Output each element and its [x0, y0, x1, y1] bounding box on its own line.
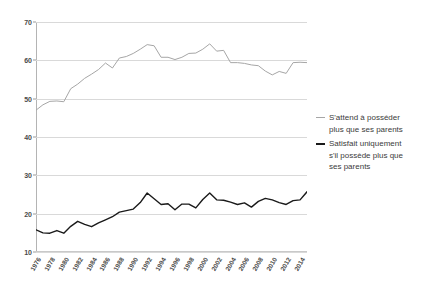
series-line-1: [36, 192, 307, 233]
x-tick-label: 1980: [57, 256, 70, 272]
x-tick-label: 2006: [237, 256, 250, 272]
y-tick-label: 20: [24, 210, 32, 217]
legend-label-line: plus que ses parents: [329, 124, 429, 136]
line-swatch-gray-icon: [316, 117, 325, 118]
x-tick-label: 1982: [70, 256, 83, 272]
y-tick-label: 50: [24, 95, 32, 102]
legend-entry[interactable]: Satisfait uniquements'il possède plus qu…: [316, 138, 429, 173]
legend-label-line: S'attend à posséder: [329, 112, 429, 124]
x-tick-label: 1988: [112, 256, 125, 272]
legend-label-line: s'il possède plus que: [329, 150, 429, 162]
x-tick-label: 1978: [43, 256, 56, 272]
x-tick-label: 2000: [196, 256, 209, 272]
chart-legend: S'attend à posséderplus que ses parentsS…: [316, 112, 429, 176]
x-tick-label: 1990: [126, 256, 139, 272]
x-tick-label: 2008: [251, 256, 264, 272]
plot-area: 10203040506070 1976197819801982198419861…: [36, 22, 307, 252]
legend-label-line: ses parents: [329, 161, 429, 173]
y-tick-label: 70: [24, 19, 32, 26]
legend-entry[interactable]: S'attend à posséderplus que ses parents: [316, 112, 429, 135]
legend-label-line: Satisfait uniquement: [329, 138, 429, 150]
x-tick-label: 2002: [209, 256, 222, 272]
x-tick-label: 2004: [223, 256, 236, 272]
chart-title-clipped: [52, 0, 252, 3]
x-tick-label: 1984: [84, 256, 97, 272]
series-lines: [36, 22, 307, 252]
x-tick-label: 1998: [182, 256, 195, 272]
y-tick-label: 60: [24, 57, 32, 64]
x-tick-label: 1994: [154, 256, 167, 272]
x-tick-label: 1996: [168, 256, 181, 272]
x-tick-label: 1986: [98, 256, 111, 272]
x-tick-label: 2010: [265, 256, 278, 272]
x-tick-label: 1992: [140, 256, 153, 272]
line-chart-figure: 10203040506070 1976197819801982198419861…: [0, 0, 429, 290]
x-tick-label: 2014: [293, 256, 306, 272]
x-tick-label: 2012: [279, 256, 292, 272]
y-tick-label: 10: [24, 249, 32, 256]
line-swatch-black-icon: [316, 143, 325, 145]
x-tick-label: 1976: [29, 256, 42, 272]
y-tick-label: 40: [24, 134, 32, 141]
gridline: [36, 252, 307, 253]
y-tick-label: 30: [24, 172, 32, 179]
series-line-0: [36, 44, 307, 110]
